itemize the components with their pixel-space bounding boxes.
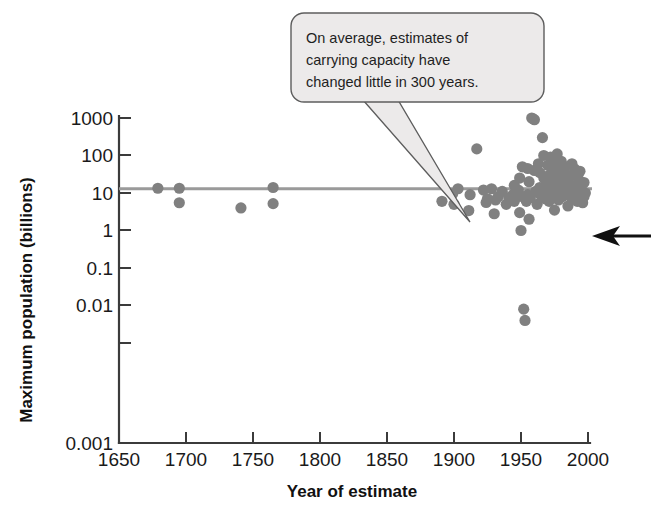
data-point bbox=[268, 198, 279, 209]
data-point bbox=[235, 202, 246, 213]
data-point bbox=[464, 189, 475, 200]
data-point bbox=[518, 304, 529, 315]
data-point bbox=[523, 214, 534, 225]
data-point bbox=[174, 197, 185, 208]
data-point bbox=[174, 183, 185, 194]
callout-line: On average, estimates of bbox=[306, 30, 469, 46]
x-tick-labels: 1650 1700 1750 1800 1850 1900 1950 2000 bbox=[98, 449, 609, 470]
y-tick-label: 1000 bbox=[71, 108, 113, 129]
data-point bbox=[436, 196, 447, 207]
pointer-arrow bbox=[592, 226, 651, 246]
data-point bbox=[578, 177, 589, 188]
data-point bbox=[537, 132, 548, 143]
data-point bbox=[549, 205, 560, 216]
y-tick-labels: 1000 100 10 1 0.1 0.01 0.001 bbox=[65, 108, 113, 454]
scatter-chart: Maximum population (billions) Year of es… bbox=[0, 0, 670, 520]
data-point bbox=[574, 166, 585, 177]
figure-container: Maximum population (billions) Year of es… bbox=[0, 0, 670, 520]
data-point bbox=[452, 183, 463, 194]
callout-tail bbox=[363, 100, 470, 222]
data-point bbox=[529, 114, 540, 125]
data-point bbox=[471, 143, 482, 154]
data-point bbox=[152, 183, 163, 194]
x-tick-label: 1900 bbox=[433, 449, 475, 470]
x-tick-label: 2000 bbox=[567, 449, 609, 470]
x-tick-label: 1800 bbox=[299, 449, 341, 470]
x-tick-marks bbox=[119, 432, 588, 443]
x-tick-label: 1700 bbox=[165, 449, 207, 470]
y-tick-label: 0.01 bbox=[76, 295, 113, 316]
x-axis-title: Year of estimate bbox=[287, 482, 417, 501]
data-points-layer bbox=[152, 112, 591, 326]
x-tick-label: 1950 bbox=[500, 449, 542, 470]
callout-line: carrying capacity have bbox=[306, 52, 450, 68]
y-tick-label: 100 bbox=[81, 145, 113, 166]
x-tick-label: 1650 bbox=[98, 449, 140, 470]
data-point bbox=[519, 315, 530, 326]
data-point bbox=[489, 208, 500, 219]
data-point bbox=[580, 187, 591, 198]
data-point bbox=[515, 225, 526, 236]
y-tick-label: 1 bbox=[102, 220, 113, 241]
data-point bbox=[523, 176, 534, 187]
y-tick-label: 10 bbox=[92, 183, 113, 204]
data-point bbox=[514, 207, 525, 218]
x-tick-label: 1750 bbox=[232, 449, 274, 470]
y-axis-title: Maximum population (billions) bbox=[17, 177, 36, 423]
y-tick-label: 0.1 bbox=[87, 258, 113, 279]
data-point bbox=[268, 182, 279, 193]
x-tick-label: 1850 bbox=[366, 449, 408, 470]
callout-line: changed little in 300 years. bbox=[306, 74, 479, 90]
y-tick-marks bbox=[119, 118, 131, 343]
